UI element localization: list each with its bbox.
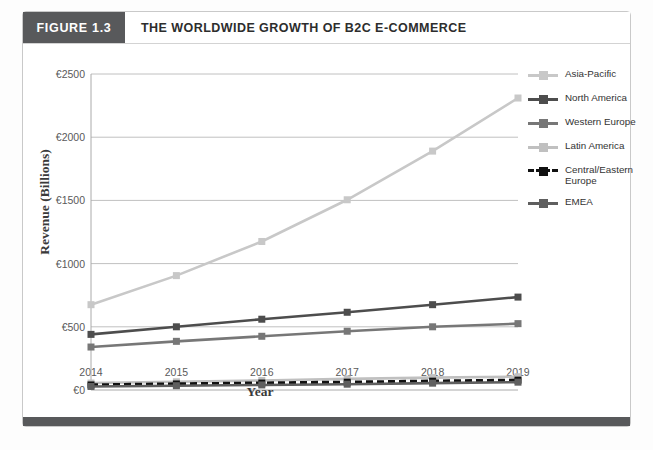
legend-label: Asia-Pacific	[565, 68, 616, 80]
legend-label: Western Europe	[565, 116, 636, 128]
legend-label: North America	[565, 92, 627, 104]
data-point-marker	[258, 238, 265, 245]
data-point-marker	[88, 344, 95, 351]
figure-number-box: FIGURE 1.3	[23, 12, 125, 43]
legend-marker	[539, 119, 548, 128]
data-point-marker	[258, 333, 265, 340]
legend-swatch	[528, 69, 558, 82]
chart-body: Revenue (Billions) €0€500€1000€1500€2000…	[23, 44, 630, 415]
data-point-marker	[515, 379, 522, 386]
data-point-marker	[88, 331, 95, 338]
data-point-marker	[344, 309, 351, 316]
data-point-marker	[173, 272, 180, 279]
legend-marker	[539, 143, 548, 152]
data-point-marker	[429, 301, 436, 308]
legend-item[interactable]: Latin America	[528, 140, 648, 154]
data-point-marker	[344, 196, 351, 203]
data-point-marker	[429, 323, 436, 330]
legend-swatch	[528, 117, 558, 130]
legend-marker	[539, 199, 548, 208]
footer-bar	[23, 417, 630, 426]
figure-card: FIGURE 1.3 THE WORLDWIDE GROWTH OF B2C E…	[22, 11, 631, 427]
legend-item[interactable]: Western Europe	[528, 116, 648, 130]
chart-legend: Asia-PacificNorth AmericaWestern EuropeL…	[528, 68, 648, 220]
legend-swatch	[528, 93, 558, 106]
x-axis-label: Year	[23, 384, 497, 400]
legend-label: Central/Eastern Europe	[565, 164, 648, 186]
data-point-marker	[515, 95, 522, 102]
data-point-marker	[344, 328, 351, 335]
series-line	[91, 297, 518, 334]
data-point-marker	[515, 320, 522, 327]
data-point-marker	[88, 301, 95, 308]
data-point-marker	[258, 316, 265, 323]
series-line	[91, 98, 518, 305]
legend-item[interactable]: Central/Eastern Europe	[528, 164, 648, 186]
figure-title-text: THE WORLDWIDE GROWTH OF B2C E-COMMERCE	[141, 21, 466, 35]
data-point-marker	[429, 148, 436, 155]
data-point-marker	[173, 323, 180, 330]
data-point-marker	[173, 338, 180, 345]
legend-label: Latin America	[565, 140, 624, 152]
legend-marker	[539, 95, 548, 104]
figure-title-box: THE WORLDWIDE GROWTH OF B2C E-COMMERCE	[125, 12, 630, 43]
legend-marker	[539, 71, 548, 80]
legend-swatch	[528, 165, 558, 178]
legend-item[interactable]: North America	[528, 92, 648, 106]
legend-swatch	[528, 141, 558, 154]
figure-number-label: FIGURE 1.3	[36, 21, 111, 35]
legend-item[interactable]: Asia-Pacific	[528, 68, 648, 82]
legend-marker	[539, 167, 548, 176]
data-point-marker	[515, 294, 522, 301]
figure-header: FIGURE 1.3 THE WORLDWIDE GROWTH OF B2C E…	[23, 12, 630, 43]
legend-label: EMEA	[565, 196, 593, 208]
legend-swatch	[528, 197, 558, 210]
legend-item[interactable]: EMEA	[528, 196, 648, 210]
